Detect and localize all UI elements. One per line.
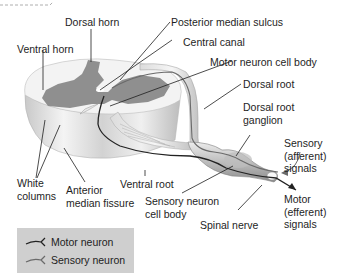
label-sensory-cell-body-line1: Sensory neuron [145,195,219,208]
label-motor-line1: Motor [284,193,326,206]
label-white-columns-line2: columns [17,190,56,203]
label-motor-line3: signals [284,218,326,231]
label-sensory-line1: Sensory [284,137,326,150]
label-central-canal: Central canal [183,36,245,49]
label-dorsal-horn: Dorsal horn [65,16,119,29]
legend-label-sensory-neuron: Sensory neuron [51,254,125,266]
label-dorsal-root: Dorsal root [243,78,294,91]
label-motor-line2: (efferent) [284,206,326,219]
legend-item-sensory-neuron: Sensory neuron [25,253,125,267]
label-sensory-line2: (afferent) [284,150,326,163]
label-anterior-line2: median fissure [66,197,134,210]
label-ventral-horn: Ventral horn [17,43,74,56]
label-posterior-median-sulcus: Posterior median sulcus [171,16,283,29]
label-sensory-afferent-signals: Sensory (afferent) signals [284,137,326,175]
motor-neuron-line-icon [25,237,47,247]
label-white-columns-line1: White [17,177,56,190]
label-sensory-neuron-cell-body: Sensory neuron cell body [145,195,219,220]
label-spinal-nerve: Spinal nerve [200,219,258,232]
label-dorsal-root-ganglion-line2: ganglion [243,114,294,127]
label-ventral-root: Ventral root [120,178,174,191]
label-dorsal-root-ganglion: Dorsal root ganglion [243,101,294,126]
dashed-border [0,2,53,5]
legend-item-motor-neuron: Motor neuron [25,235,113,249]
nerve-cut-end [267,172,277,180]
label-motor-neuron-cell-body: Motor neuron cell body [210,56,317,69]
spinal-cord-diagram: Dorsal horn Posterior median sulcus Vent… [0,0,342,277]
label-motor-efferent-signals: Motor (efferent) signals [284,193,326,231]
label-white-columns: White columns [17,177,56,202]
legend: Motor neuron Sensory neuron [17,228,134,273]
sensory-neuron-line-icon [25,255,47,265]
motor-arrow-icon [288,183,296,190]
legend-label-motor-neuron: Motor neuron [51,236,113,248]
label-sensory-line3: signals [284,162,326,175]
label-dorsal-root-ganglion-line1: Dorsal root [243,101,294,114]
